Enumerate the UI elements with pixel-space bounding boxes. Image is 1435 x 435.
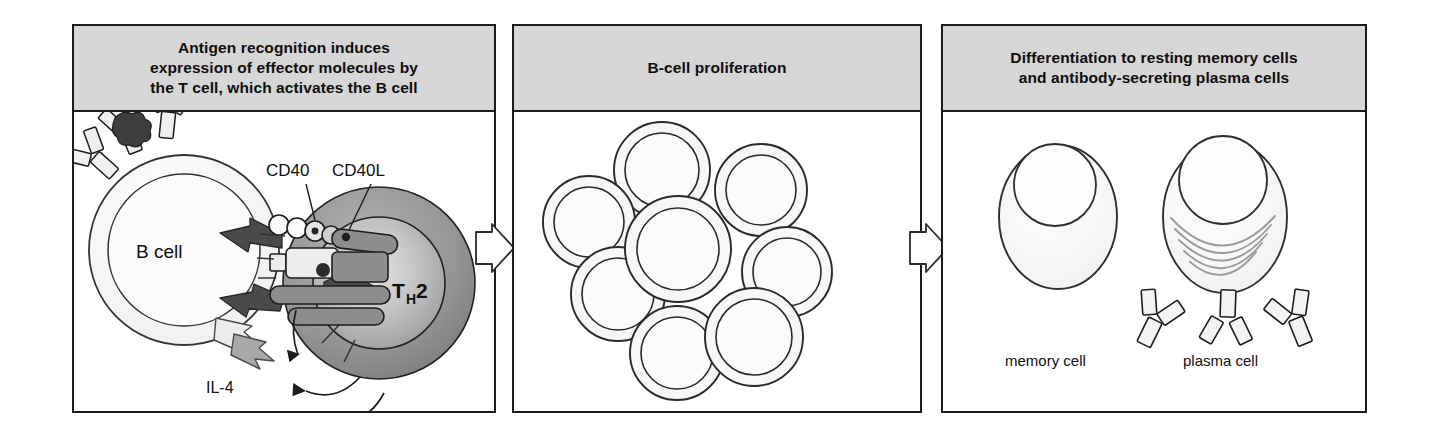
th2-label-t: T [392, 279, 405, 302]
immunology-figure: Antigen recognition induces expression o… [0, 0, 1435, 435]
secreted-antibody [1199, 289, 1254, 346]
th2-label-2: 2 [416, 279, 428, 302]
proliferating-b-cell-cluster [543, 122, 832, 400]
panel-2-header-text: B-cell proliferation [648, 58, 787, 78]
memory-cell-label: memory cell [1005, 352, 1086, 369]
b-cell [89, 155, 279, 345]
plasma-cell-label: plasma cell [1183, 352, 1258, 369]
panel-3-header-text: Differentiation to resting memory cells … [1010, 48, 1297, 88]
b-cell-label: B cell [136, 241, 182, 262]
panel-1-header-text: Antigen recognition induces expression o… [150, 38, 418, 97]
panel-1-body: T H 2 B cell [74, 112, 494, 411]
th2-label-h: H [406, 291, 416, 307]
b-cell-clone [705, 288, 803, 386]
th2-cell [283, 187, 475, 379]
mhc-tcr-complex [270, 248, 390, 325]
cd40l-label: CD40L [332, 161, 385, 180]
secreted-antibodies [1120, 284, 1327, 355]
b-cell-clone [625, 196, 731, 302]
il4-label: IL-4 [206, 379, 234, 396]
il5-arrow [306, 377, 360, 395]
plasma-cell [1163, 136, 1287, 293]
panel-differentiation: Differentiation to resting memory cells … [941, 24, 1367, 413]
panel-3-body: memory cell plasma cell [943, 112, 1365, 411]
panel-2-body [514, 112, 920, 411]
il5-arrowhead [291, 382, 306, 396]
il6-arrow [332, 393, 384, 411]
panel-1-header: Antigen recognition induces expression o… [74, 26, 494, 112]
panel-3-header: Differentiation to resting memory cells … [943, 26, 1365, 112]
panel-antigen-recognition: Antigen recognition induces expression o… [72, 24, 496, 413]
antigen-blob [112, 112, 151, 147]
memory-cell [999, 144, 1117, 289]
il6-arrowhead [317, 410, 332, 411]
b-cell-clone [715, 144, 807, 236]
il4-cytokine-arrows [214, 318, 274, 369]
secreted-antibody [1120, 284, 1188, 355]
panel-b-cell-proliferation: B-cell proliferation [512, 24, 922, 413]
panel-2-header: B-cell proliferation [514, 26, 920, 112]
il4-arrowhead [283, 345, 300, 362]
cd40-label: CD40 [266, 161, 309, 180]
cd40-leader-line [306, 184, 315, 220]
secreted-antibody [1261, 284, 1327, 353]
